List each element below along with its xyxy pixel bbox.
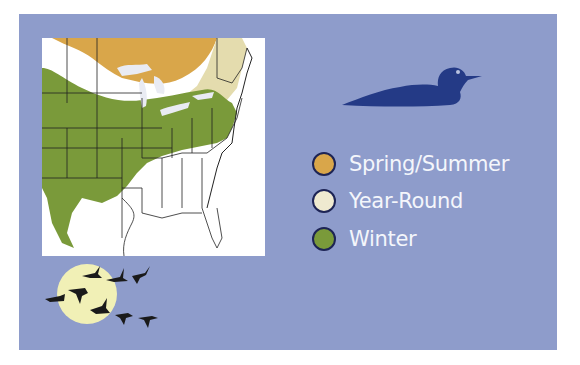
legend: Spring/Summer Year-Round Winter <box>312 145 509 258</box>
legend-item-spring-summer: Spring/Summer <box>312 145 509 183</box>
winter-swatch-icon <box>312 227 336 251</box>
spring-summer-region <box>52 38 217 84</box>
legend-label: Year-Round <box>349 189 463 213</box>
map-svg <box>42 38 265 256</box>
range-map <box>42 38 265 256</box>
duck-silhouette-icon <box>340 60 490 114</box>
moon-and-flock-illustration <box>40 258 170 342</box>
spring-summer-swatch-icon <box>312 152 336 176</box>
legend-item-winter: Winter <box>312 220 509 258</box>
legend-item-year-round: Year-Round <box>312 183 509 221</box>
legend-label: Spring/Summer <box>349 152 509 176</box>
legend-label: Winter <box>349 227 416 251</box>
year-round-swatch-icon <box>312 189 336 213</box>
moon-icon <box>57 264 117 324</box>
